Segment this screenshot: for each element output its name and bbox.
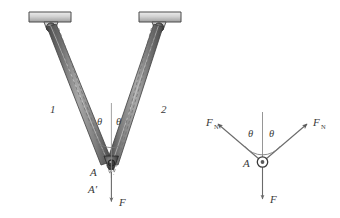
truss-theta-right-label: θ <box>116 116 121 127</box>
fbd-joint-label: A <box>242 157 250 169</box>
support-right-plate <box>139 12 181 22</box>
fbd-force-left-subscript: N <box>214 123 219 130</box>
fbd-force-right-symbol: F <box>312 116 320 128</box>
fbd-force-right-label: F N <box>312 116 326 130</box>
member-1-highlight <box>51 26 109 163</box>
fbd-theta-right-label: θ <box>269 128 274 139</box>
mechanics-figure: 1 2 θ θ A A′ F <box>0 0 340 218</box>
fbd-joint-center-dot <box>261 160 265 164</box>
truss-theta-left-label: θ <box>97 116 102 127</box>
figure-root: 1 2 θ θ A A′ F <box>0 0 340 218</box>
fbd-force-left-symbol: F <box>205 116 213 128</box>
fbd-force-left-arrow <box>218 124 263 162</box>
dashed-right-outer <box>114 30 157 176</box>
fbd-force-left-label: F N <box>205 116 219 130</box>
fbd-force-right-subscript: N <box>321 123 326 130</box>
member-2-bar <box>107 24 163 165</box>
member-2-label: 2 <box>161 103 167 115</box>
support-left-plate <box>29 12 71 22</box>
truss-load-label: F <box>118 196 126 208</box>
fbd-joint-marker <box>257 157 267 167</box>
free-body-diagram: F N F N θ θ A F <box>205 112 326 205</box>
member-1-label: 1 <box>50 103 56 115</box>
member-1-bar <box>47 24 112 165</box>
joint-A-label: A <box>89 166 97 178</box>
joint-A-prime-label: A′ <box>87 183 98 195</box>
fbd-force-down-label: F <box>269 193 277 205</box>
fbd-theta-left-label: θ <box>248 128 253 139</box>
truss-diagram: 1 2 θ θ A A′ F <box>29 12 181 208</box>
